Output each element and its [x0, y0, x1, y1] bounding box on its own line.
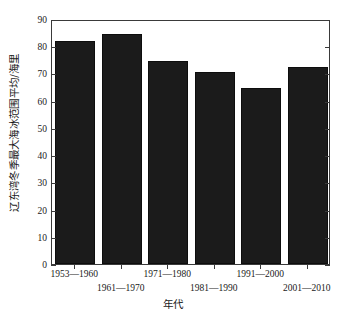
y-tick-label: 0: [7, 260, 47, 270]
y-tick-label: 60: [7, 97, 47, 107]
y-tick-mark: [51, 183, 56, 184]
y-tick-mark-right: [325, 265, 330, 266]
y-tick-label: 80: [7, 42, 47, 52]
bar: [148, 61, 188, 264]
bar: [55, 41, 95, 264]
y-tick-mark-right: [325, 47, 330, 48]
y-tick-label: 70: [7, 69, 47, 79]
x-tick-mark: [121, 265, 122, 269]
x-tick-label: 1953—1960: [51, 269, 99, 279]
x-tick-label: 1991—2000: [237, 269, 285, 279]
y-tick-mark-right: [325, 183, 330, 184]
y-tick-mark-right: [325, 211, 330, 212]
y-tick-label: 20: [7, 206, 47, 216]
x-tick-label: 1971—1980: [144, 269, 192, 279]
y-tick-mark: [51, 211, 56, 212]
y-tick-label: 40: [7, 151, 47, 161]
y-tick-mark: [51, 20, 56, 21]
x-tick-mark: [214, 265, 215, 269]
chart-figure: 辽东湾冬季最大海冰范围平均/海里 0102030405060708090 195…: [0, 0, 346, 314]
y-tick-mark: [51, 238, 56, 239]
y-tick-label: 30: [7, 178, 47, 188]
y-tick-mark-right: [325, 238, 330, 239]
y-tick-mark-right: [325, 129, 330, 130]
y-tick-mark-right: [325, 74, 330, 75]
y-tick-label: 90: [7, 15, 47, 25]
plot-area: [51, 20, 330, 265]
x-tick-mark: [307, 265, 308, 269]
bar: [241, 88, 281, 264]
y-tick-mark-right: [325, 102, 330, 103]
x-axis-title: 年代: [0, 296, 346, 311]
x-tick-label: 1961—1970: [97, 283, 145, 293]
y-tick-label: 10: [7, 233, 47, 243]
bar: [288, 67, 328, 264]
y-tick-mark-right: [325, 20, 330, 21]
y-tick-mark: [51, 265, 56, 266]
y-tick-mark: [51, 156, 56, 157]
x-tick-label: 1981—1990: [190, 283, 238, 293]
bar-series: [52, 21, 329, 264]
bar: [102, 34, 142, 264]
y-tick-mark: [51, 47, 56, 48]
bar: [195, 72, 235, 264]
y-tick-mark: [51, 74, 56, 75]
y-tick-mark-right: [325, 156, 330, 157]
y-tick-mark: [51, 129, 56, 130]
y-tick-mark: [51, 102, 56, 103]
x-tick-label: 2001—2010: [283, 283, 331, 293]
y-tick-label: 50: [7, 124, 47, 134]
